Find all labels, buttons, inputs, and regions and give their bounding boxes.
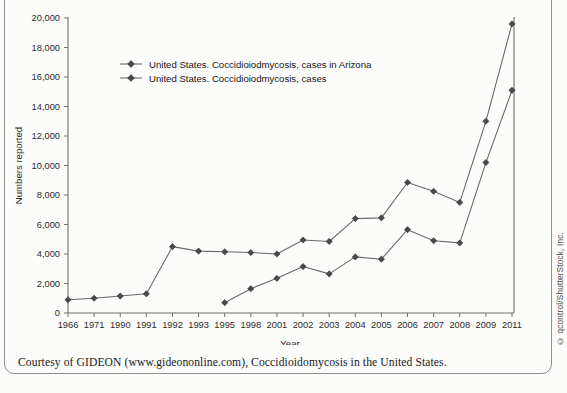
legend-label-1: United States. Coccidioiodmycosis, cases — [149, 73, 327, 84]
x-tick-label: 2007 — [423, 320, 444, 330]
x-axis-title: Year — [280, 338, 300, 345]
x-tick-label: 1993 — [188, 320, 209, 330]
data-point-marker — [222, 300, 228, 306]
figure-caption: Courtesy of GIDEON (www.gideononline.com… — [18, 356, 528, 369]
x-tick-label: 2008 — [449, 320, 470, 330]
data-point-marker — [248, 249, 254, 255]
data-point-marker — [326, 271, 332, 277]
y-tick-label: 0 — [55, 308, 60, 318]
y-tick-label: 20,000 — [32, 13, 60, 23]
chart-legend: United States. Coccidioiodmycosis, cases… — [120, 59, 372, 84]
image-credit: © qcontrol/ShutterStock, Inc. — [556, 232, 565, 345]
data-point-marker — [300, 237, 306, 243]
y-tick-label: 4,000 — [37, 249, 60, 259]
x-tick-label: 1998 — [240, 320, 261, 330]
figure-container: 02,0004,0006,0008,00010,00012,00014,0001… — [0, 0, 567, 393]
series-line-0 — [225, 90, 512, 302]
data-point-marker — [117, 293, 123, 299]
data-point-marker — [457, 199, 463, 205]
x-tick-label: 2004 — [345, 320, 366, 330]
y-tick-label: 6,000 — [37, 220, 60, 230]
x-tick-label: 2006 — [397, 320, 418, 330]
x-tick-label: 2005 — [371, 320, 392, 330]
data-point-marker — [65, 297, 71, 303]
data-point-marker — [274, 251, 280, 257]
x-tick-label: 1991 — [136, 320, 157, 330]
y-tick-label: 18,000 — [32, 43, 60, 53]
x-tick-label: 2003 — [319, 320, 340, 330]
y-tick-label: 8,000 — [37, 190, 60, 200]
chart-plot-area: 02,0004,0006,0008,00010,00012,00014,0001… — [0, 0, 567, 345]
y-axis-title: Numbers reported — [13, 127, 24, 204]
data-point-marker — [483, 159, 489, 165]
x-tick-label: 2011 — [502, 320, 522, 330]
legend-marker-0 — [128, 61, 135, 68]
x-tick-label: 2002 — [293, 320, 314, 330]
data-point-marker — [352, 254, 358, 260]
data-point-marker — [143, 291, 149, 297]
legend-label-0: United States. Coccidioiodmycosis, cases… — [149, 59, 372, 70]
data-point-marker — [274, 275, 280, 281]
x-tick-label: 1990 — [110, 320, 131, 330]
y-tick-label: 12,000 — [32, 131, 60, 141]
x-tick-label: 1971 — [84, 320, 105, 330]
x-tick-label: 2009 — [476, 320, 497, 330]
data-point-marker — [91, 295, 97, 301]
data-point-marker — [222, 249, 228, 255]
y-tick-label: 16,000 — [32, 72, 60, 82]
line-chart: 02,0004,0006,0008,00010,00012,00014,0001… — [0, 0, 567, 345]
data-point-marker — [195, 248, 201, 254]
y-tick-label: 2,000 — [37, 279, 60, 289]
y-axis: 02,0004,0006,0008,00010,00012,00014,0001… — [32, 13, 68, 318]
data-point-marker — [457, 240, 463, 246]
y-tick-label: 10,000 — [32, 161, 60, 171]
x-tick-label: 1995 — [214, 320, 235, 330]
data-point-marker — [248, 286, 254, 292]
y-tick-label: 14,000 — [32, 102, 60, 112]
data-point-marker — [431, 238, 437, 244]
legend-marker-1 — [128, 75, 135, 82]
data-point-marker — [300, 263, 306, 269]
data-point-marker — [169, 244, 175, 250]
x-tick-label: 1966 — [58, 320, 79, 330]
x-tick-label: 1992 — [162, 320, 183, 330]
data-point-marker — [483, 118, 489, 124]
x-tick-label: 2001 — [267, 320, 288, 330]
data-point-marker — [431, 188, 437, 194]
